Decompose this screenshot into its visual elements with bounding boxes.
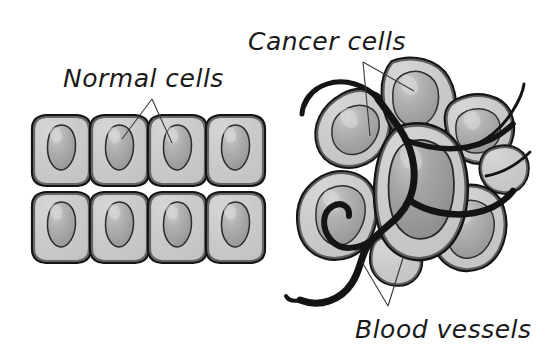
figure-root: Normal cells Cancer cells Blood vessels xyxy=(0,0,553,349)
normal-cell xyxy=(91,116,148,185)
normal-cell xyxy=(149,193,206,262)
normal-cell xyxy=(33,193,90,262)
normal-cell-row-bottom xyxy=(33,193,264,262)
normal-cell xyxy=(91,193,148,262)
label-normal-cells: Normal cells xyxy=(63,64,224,93)
normal-cell-row-top xyxy=(33,116,264,185)
normal-cell xyxy=(149,116,206,185)
normal-cells-panel xyxy=(33,116,264,262)
normal-cell xyxy=(33,116,90,185)
normal-cell xyxy=(207,193,264,262)
label-cancer-cells: Cancer cells xyxy=(248,27,406,56)
normal-cell xyxy=(207,116,264,185)
cancer-cells-panel xyxy=(286,59,530,304)
diagram-canvas: Normal cells Cancer cells Blood vessels xyxy=(0,0,553,349)
label-blood-vessels: Blood vessels xyxy=(355,315,532,344)
